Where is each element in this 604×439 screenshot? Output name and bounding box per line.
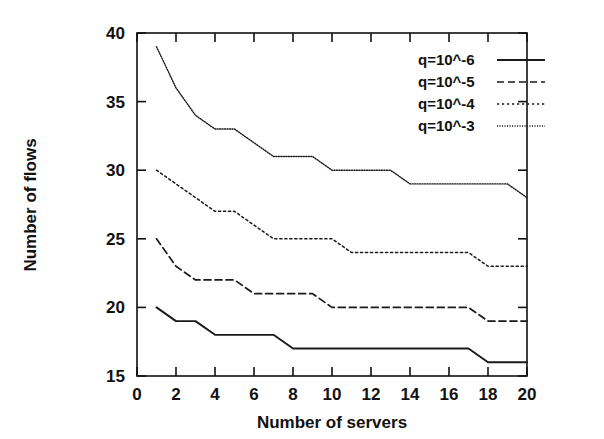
x-axis-tick-labels: 02468101214161820 <box>132 385 536 404</box>
y-tick-label: 40 <box>106 24 125 43</box>
x-tick-label: 6 <box>249 385 258 404</box>
x-tick-label: 0 <box>132 385 141 404</box>
x-tick-label: 16 <box>440 385 459 404</box>
y-tick-label: 35 <box>106 93 125 112</box>
x-tick-label: 20 <box>518 385 537 404</box>
line-chart-canvas: 152025303540 02468101214161820 Number of… <box>0 0 604 439</box>
y-tick-label: 25 <box>106 230 125 249</box>
legend-label-0: q=10^-6 <box>418 51 475 68</box>
y-tick-label: 30 <box>106 161 125 180</box>
y-axis-tick-labels: 152025303540 <box>106 24 125 386</box>
y-tick-label: 15 <box>106 367 125 386</box>
legend-label-2: q=10^-4 <box>418 95 475 112</box>
series-line-2 <box>157 170 528 266</box>
series-line-0 <box>157 307 528 362</box>
series-line-1 <box>157 239 528 321</box>
legend-label-3: q=10^-3 <box>418 117 475 134</box>
x-axis-title: Number of servers <box>257 413 407 432</box>
x-tick-label: 14 <box>401 385 420 404</box>
x-tick-label: 4 <box>210 385 220 404</box>
x-tick-label: 10 <box>323 385 342 404</box>
chart-legend: q=10^-6q=10^-5q=10^-4q=10^-3 <box>418 51 545 134</box>
x-tick-label: 8 <box>288 385 297 404</box>
y-axis-title: Number of flows <box>21 138 40 271</box>
chart-figure: 152025303540 02468101214161820 Number of… <box>0 0 604 439</box>
x-tick-label: 12 <box>362 385 381 404</box>
y-tick-label: 20 <box>106 298 125 317</box>
legend-label-1: q=10^-5 <box>418 73 475 90</box>
x-tick-label: 18 <box>479 385 498 404</box>
x-tick-label: 2 <box>171 385 180 404</box>
